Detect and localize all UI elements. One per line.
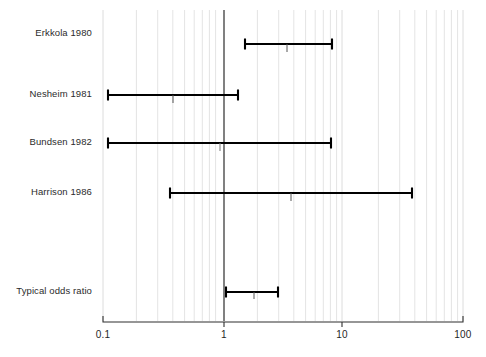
x-axis-spine xyxy=(103,316,463,322)
x-tick-label-0.1: 0.1 xyxy=(83,329,123,340)
x-tick-label-100: 100 xyxy=(443,329,483,340)
study-label-nesheim-1981: Nesheim 1981 xyxy=(0,88,92,99)
x-axis xyxy=(103,316,463,327)
study-label-harrison-1986: Harrison 1986 xyxy=(0,186,92,197)
study-label-typical-odds-ratio: Typical odds ratio xyxy=(0,285,92,296)
forest-plot-canvas xyxy=(0,0,486,357)
x-tick-label-1: 1 xyxy=(204,329,244,340)
summary-row-typical-odds-ratio xyxy=(226,287,278,300)
study-label-bundsen-1982: Bundsen 1982 xyxy=(0,136,92,147)
study-row-bundsen-1982 xyxy=(108,138,331,152)
forest-plot: Erkkola 1980 Nesheim 1981 Bundsen 1982 H… xyxy=(0,0,486,357)
study-label-erkkola-1980: Erkkola 1980 xyxy=(0,27,92,38)
study-row-harrison-1986 xyxy=(170,188,412,202)
x-tick-label-10: 10 xyxy=(322,329,362,340)
decade-gridlines-group xyxy=(103,10,463,321)
gridlines-group xyxy=(136,10,457,321)
study-row-erkkola-1980 xyxy=(245,39,332,53)
